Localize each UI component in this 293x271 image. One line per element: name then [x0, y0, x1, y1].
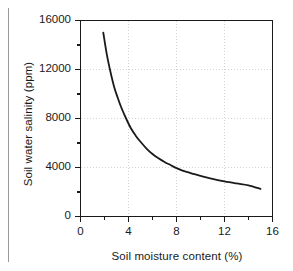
data-series [103, 33, 260, 189]
y-tick-label: 8000 [13, 111, 71, 123]
x-tick-label: 8 [157, 225, 197, 237]
y-tick-label: 16000 [13, 13, 71, 25]
axis-ticks [75, 21, 273, 223]
chart-figure: Soil water salinity (ppm) Soil moisture … [0, 0, 292, 271]
x-tick-label: 16 [253, 225, 293, 237]
x-tick-label: 4 [109, 225, 149, 237]
y-tick-label: 0 [13, 209, 71, 221]
y-tick-label: 12000 [13, 62, 71, 74]
x-tick-label: 12 [205, 225, 245, 237]
x-tick-label: 0 [61, 225, 101, 237]
y-tick-label: 4000 [13, 160, 71, 172]
gridlines [81, 21, 273, 217]
